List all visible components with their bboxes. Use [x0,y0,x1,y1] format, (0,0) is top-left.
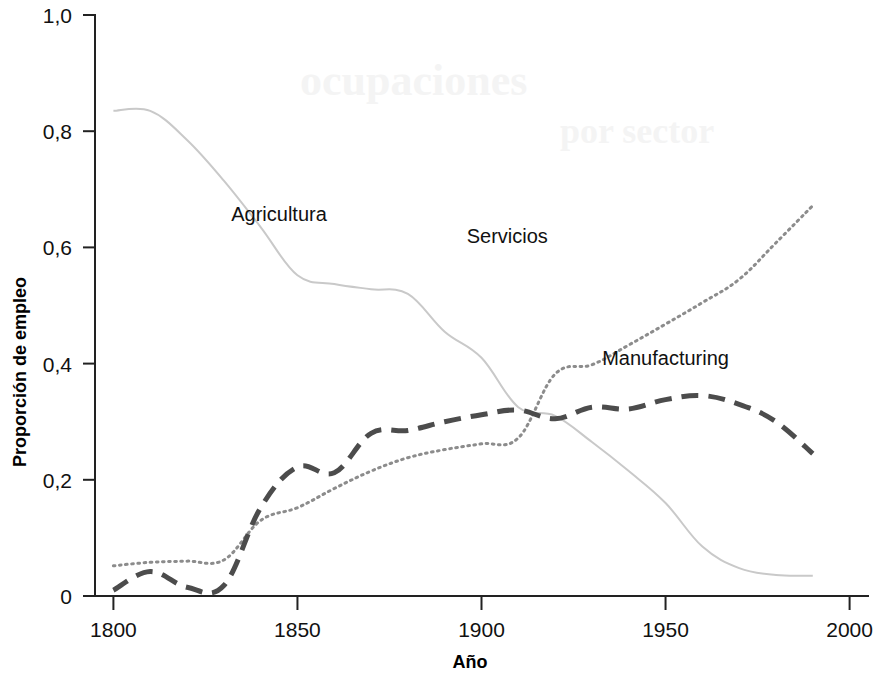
y-tick-label: 0,6 [43,236,72,259]
y-axis-group [83,15,95,596]
y-tick-label-layer: 00,20,40,60,81,0 [43,4,73,608]
x-tick-marks [113,596,849,610]
y-tick-label: 0,8 [43,120,72,143]
y-tick-marks [83,15,95,596]
x-tick-label: 1950 [642,618,689,641]
y-tick-label: 0 [60,585,72,608]
chart-figure: ocupaciones por sector AgriculturaServic… [0,0,876,680]
y-tick-label: 1,0 [43,4,72,27]
x-tick-label: 1900 [458,618,505,641]
series-label-servicios: Servicios [467,225,548,247]
y-tick-label: 0,2 [43,469,72,492]
employment-share-line-chart: AgriculturaServiciosManufacturing 00,20,… [0,0,876,680]
x-axis-title: Año [453,652,488,672]
x-tick-label-layer: 18001850190019502000 [90,618,873,641]
x-tick-label: 1800 [90,618,137,641]
series-label-layer: AgriculturaServiciosManufacturing [231,203,729,369]
series-label-agricultura: Agricultura [231,203,327,225]
series-line-servicios [113,206,812,566]
x-tick-label: 1850 [274,618,321,641]
y-tick-label: 0,4 [43,353,73,376]
series-line-agricultura [113,109,812,576]
x-axis-group [95,596,868,610]
y-axis-title: Proporción de empleo [10,277,30,467]
x-tick-label: 2000 [826,618,873,641]
series-label-manufacturing: Manufacturing [602,347,729,369]
